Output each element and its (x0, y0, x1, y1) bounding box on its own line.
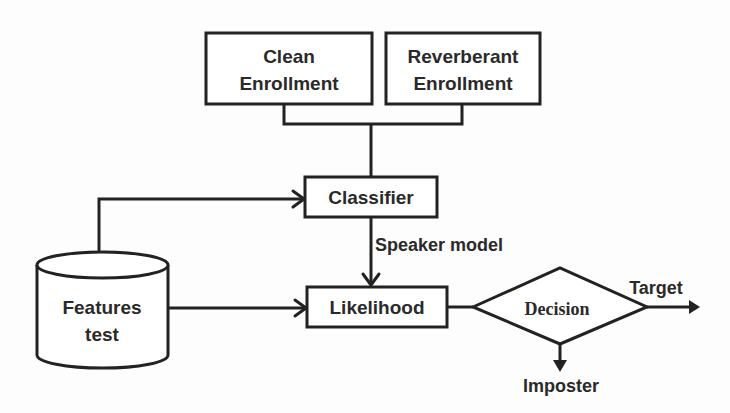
classifier-label: Classifier (328, 187, 414, 208)
speaker-verification-flowchart: Clean Enrollment Reverberant Enrollment … (0, 0, 730, 413)
diagram-canvas: Clean Enrollment Reverberant Enrollment … (0, 0, 730, 413)
target-label: Target (629, 278, 683, 298)
clean-enrollment-label-line2: Enrollment (239, 73, 339, 94)
clean-enrollment-label-line1: Clean (263, 46, 315, 67)
decision-label: Decision (525, 299, 590, 319)
enrollment-merge-connector (284, 104, 462, 176)
speaker-model-edge: Speaker model (363, 217, 503, 285)
imposter-edge: Imposter (523, 344, 599, 396)
likelihood-label: Likelihood (330, 297, 425, 318)
classifier-node: Classifier (305, 177, 437, 217)
decision-node: Decision (473, 268, 647, 344)
features-test-label-line1: Features (62, 297, 141, 318)
imposter-label: Imposter (523, 376, 599, 396)
reverberant-enrollment-node: Reverberant Enrollment (386, 33, 540, 104)
clean-enrollment-node: Clean Enrollment (206, 33, 372, 104)
features-test-database-node: Features test (37, 252, 168, 368)
features-to-likelihood-edge (169, 300, 306, 316)
arrow-down-icon (553, 360, 567, 372)
features-to-classifier-edge (99, 191, 304, 252)
arrow-right-icon (689, 300, 700, 314)
reverberant-enrollment-label-line2: Enrollment (413, 73, 513, 94)
features-test-label-line2: test (85, 324, 119, 345)
reverberant-enrollment-label-line1: Reverberant (408, 46, 520, 67)
likelihood-node: Likelihood (307, 287, 447, 327)
speaker-model-label: Speaker model (375, 235, 503, 255)
